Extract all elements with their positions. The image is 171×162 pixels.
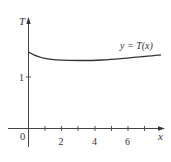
x-tick-label-2: 2 — [59, 136, 64, 147]
x-tick-label-4: 4 — [92, 136, 97, 147]
origin-label: 0 — [20, 131, 25, 142]
x-axis-label: x — [157, 130, 163, 142]
curve-label: y = T(x) — [119, 40, 154, 52]
y-axis-arrow-icon — [26, 17, 30, 24]
y-axis-label: T — [19, 15, 26, 27]
y-tick-label-1: 1 — [19, 72, 24, 83]
chart: T x 0 1 2 4 6 y = T(x) — [0, 0, 171, 162]
x-tick-label-6: 6 — [125, 136, 130, 147]
curve-T — [29, 52, 162, 61]
